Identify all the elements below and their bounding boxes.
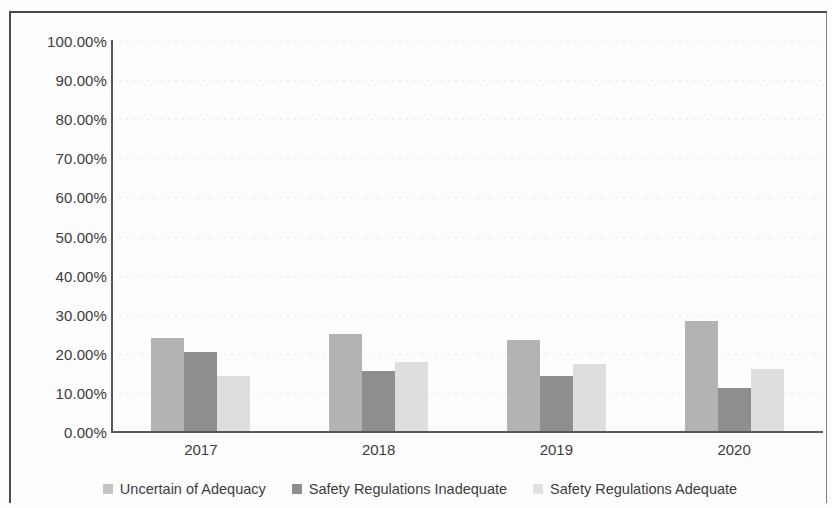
legend-label: Safety Regulations Adequate: [550, 481, 737, 497]
bar[interactable]: [751, 369, 784, 432]
legend-item[interactable]: Safety Regulations Inadequate: [292, 481, 507, 497]
y-axis-tick-label: 90.00%: [15, 72, 107, 89]
y-axis-tick-labels: 100.00%90.00%80.00%70.00%60.00%50.00%40.…: [11, 13, 107, 508]
bar[interactable]: [395, 362, 428, 432]
bar[interactable]: [329, 334, 362, 432]
y-axis-tick-label: 70.00%: [15, 150, 107, 167]
bar-group: [112, 41, 290, 432]
x-axis-category-label: 2019: [486, 441, 626, 458]
legend-swatch-icon: [533, 484, 543, 494]
bar-group: [290, 41, 468, 432]
y-axis-tick-label: 80.00%: [15, 111, 107, 128]
bar[interactable]: [507, 340, 540, 432]
y-axis-tick-label: 30.00%: [15, 306, 107, 323]
bar-group: [468, 41, 646, 432]
bar[interactable]: [685, 321, 718, 432]
y-axis-tick-label: 60.00%: [15, 189, 107, 206]
bar[interactable]: [573, 364, 606, 432]
y-axis-line: [111, 40, 113, 433]
bar[interactable]: [151, 338, 184, 432]
legend-label: Uncertain of Adequacy: [120, 481, 266, 497]
bar[interactable]: [718, 388, 751, 432]
x-axis-category-label: 2018: [309, 441, 449, 458]
x-axis-line: [112, 431, 823, 433]
chart-legend: Uncertain of AdequacySafety Regulations …: [11, 481, 829, 497]
chart-frame: 100.00%90.00%80.00%70.00%60.00%50.00%40.…: [9, 11, 827, 503]
legend-item[interactable]: Uncertain of Adequacy: [103, 481, 266, 497]
plot-area: [112, 41, 823, 432]
y-axis-tick-label: 10.00%: [15, 384, 107, 401]
scanned-page-background: 100.00%90.00%80.00%70.00%60.00%50.00%40.…: [0, 0, 832, 508]
y-axis-tick-label: 100.00%: [15, 33, 107, 50]
y-axis-tick-label: 50.00%: [15, 228, 107, 245]
y-axis-tick-label: 20.00%: [15, 345, 107, 362]
bar[interactable]: [217, 376, 250, 432]
legend-item[interactable]: Safety Regulations Adequate: [533, 481, 737, 497]
legend-swatch-icon: [292, 484, 302, 494]
y-axis-tick-label: 40.00%: [15, 267, 107, 284]
x-axis-category-label: 2017: [131, 441, 271, 458]
legend-swatch-icon: [103, 484, 113, 494]
bar[interactable]: [540, 376, 573, 432]
x-axis-category-label: 2020: [664, 441, 804, 458]
y-axis-tick-label: 0.00%: [15, 424, 107, 441]
legend-label: Safety Regulations Inadequate: [309, 481, 507, 497]
bar[interactable]: [362, 371, 395, 432]
bar-group: [645, 41, 823, 432]
bar[interactable]: [184, 352, 217, 432]
